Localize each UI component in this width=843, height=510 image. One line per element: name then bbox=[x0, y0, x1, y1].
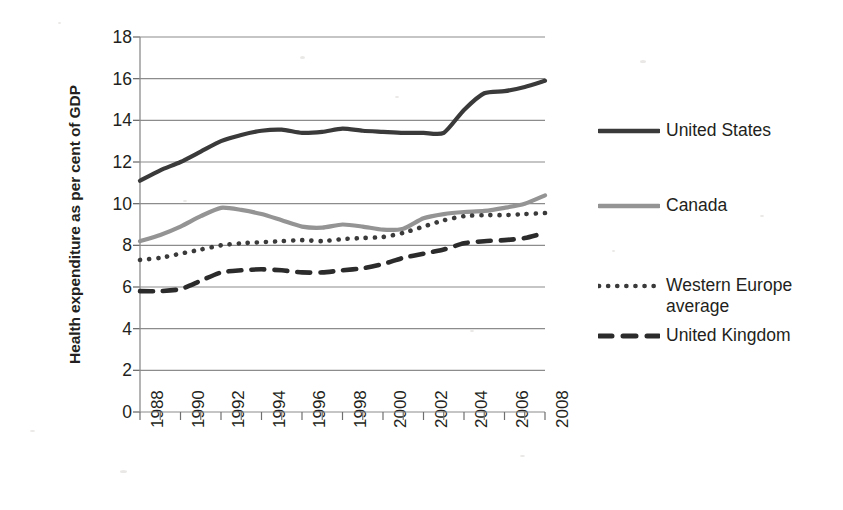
scan-artifact bbox=[395, 96, 399, 98]
scan-artifact bbox=[640, 60, 646, 63]
legend-label: Canada bbox=[660, 195, 727, 216]
legend-swatch-icon bbox=[598, 277, 660, 293]
scan-artifact bbox=[120, 470, 127, 473]
series-line-western-europe-average bbox=[140, 213, 545, 260]
legend-label: Western Europe average bbox=[660, 275, 843, 317]
legend-swatch-icon bbox=[598, 327, 660, 343]
legend-item-united-kingdom[interactable]: United Kingdom bbox=[598, 325, 843, 346]
legend-swatch-icon bbox=[598, 122, 660, 138]
scan-artifact bbox=[470, 330, 474, 332]
legend-label: United Kingdom bbox=[660, 325, 791, 346]
data-series-group bbox=[140, 81, 545, 292]
plot-area bbox=[0, 0, 843, 510]
scan-artifact bbox=[612, 250, 615, 252]
legend-item-canada[interactable]: Canada bbox=[598, 195, 843, 216]
scan-artifact bbox=[700, 300, 705, 302]
scan-artifact bbox=[760, 215, 764, 217]
scan-artifact bbox=[30, 430, 35, 432]
scan-artifact bbox=[300, 56, 305, 59]
scan-artifact bbox=[183, 200, 187, 202]
legend-swatch-icon bbox=[598, 197, 660, 213]
series-line-united-states bbox=[140, 81, 545, 181]
scan-artifact bbox=[520, 455, 525, 457]
series-line-canada bbox=[140, 195, 545, 241]
legend-item-united-states[interactable]: United States bbox=[598, 120, 843, 141]
scan-artifact bbox=[58, 22, 61, 24]
series-line-united-kingdom bbox=[140, 233, 545, 291]
chart-figure: Health expenditure as per cent of GDP 02… bbox=[0, 0, 843, 510]
legend-item-western-europe-average[interactable]: Western Europe average bbox=[598, 275, 843, 317]
legend-label: United States bbox=[660, 120, 771, 141]
